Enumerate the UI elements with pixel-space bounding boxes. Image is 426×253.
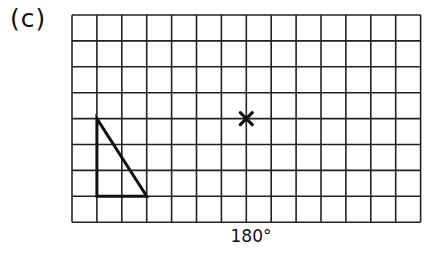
rotation-angle-label: 180°: [229, 226, 273, 246]
grid-diagram: [0, 0, 426, 253]
